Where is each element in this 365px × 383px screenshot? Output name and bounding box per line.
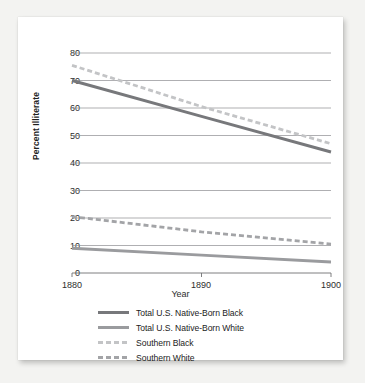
legend-label-total-native-born-white: Total U.S. Native-Born White xyxy=(136,323,244,333)
legend-label-total-native-born-black: Total U.S. Native-Born Black xyxy=(136,308,243,318)
legend-item-southern-white: Southern White xyxy=(98,350,298,365)
legend-swatch-solid-icon xyxy=(98,307,129,318)
legend-item-total-native-born-black: Total U.S. Native-Born Black xyxy=(98,305,298,320)
legend-item-total-native-born-white: Total U.S. Native-Born White xyxy=(98,320,298,335)
legend-label-southern-black: Southern Black xyxy=(136,338,194,348)
chart-legend: Total U.S. Native-Born Black Total U.S. … xyxy=(98,305,298,365)
illiteracy-line-chart: 80 70 60 50 40 30 20 10 0 1880 1890 1900… xyxy=(18,17,343,360)
legend-item-southern-black: Southern Black xyxy=(98,335,298,350)
figure-card: 80 70 60 50 40 30 20 10 0 1880 1890 1900… xyxy=(18,17,343,360)
legend-swatch-solid-icon xyxy=(98,322,129,333)
series-line-total-native-born-white xyxy=(72,248,331,262)
series-line-southern-white xyxy=(72,217,331,245)
gridlines xyxy=(72,53,331,246)
legend-swatch-dashed-icon xyxy=(98,352,129,363)
series-line-southern-black xyxy=(72,65,331,143)
legend-label-southern-white: Southern White xyxy=(136,353,195,363)
legend-swatch-dashed-icon xyxy=(98,337,129,348)
series-line-total-native-born-black xyxy=(72,81,331,153)
